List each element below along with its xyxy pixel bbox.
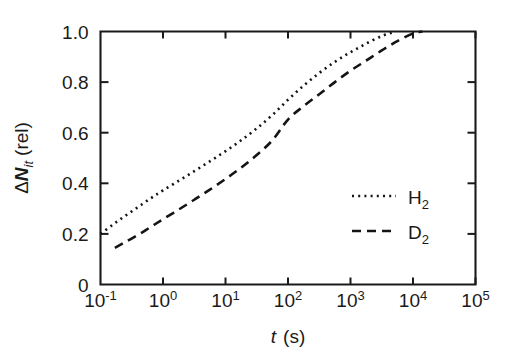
x-axis-title: t(s) <box>271 326 305 347</box>
y-tick-label-0.4: 0.4 <box>62 173 89 194</box>
x-tick-label-2: 102 <box>274 288 302 311</box>
x-tick-label-4: 104 <box>399 288 427 311</box>
legend-label-D2: D2 <box>408 222 429 247</box>
x-tick-label-0: 100 <box>149 288 177 311</box>
y-tick-label-0.6: 0.6 <box>62 123 88 144</box>
chart-svg: 10-110010110210310410500.20.40.60.81.0H2… <box>0 0 511 358</box>
plot-area: 10-110010110210310410500.20.40.60.81.0H2… <box>11 22 490 348</box>
y-tick-label-0.2: 0.2 <box>62 224 88 245</box>
legend-label-H2: H2 <box>408 187 429 212</box>
series-line-D2 <box>115 32 423 248</box>
x-tick-label--1: 10-1 <box>84 288 117 311</box>
x-tick-label-3: 103 <box>336 288 364 311</box>
y-tick-label-0.8: 0.8 <box>62 72 88 93</box>
y-axis-title: ΔNit(rel) <box>11 122 36 194</box>
y-tick-label-0: 0 <box>78 275 89 296</box>
x-tick-label-5: 105 <box>461 288 489 311</box>
axis-frame <box>101 32 476 285</box>
y-tick-label-1: 1.0 <box>62 22 88 43</box>
x-tick-label-1: 101 <box>211 288 239 311</box>
figure-container: 10-110010110210310410500.20.40.60.81.0H2… <box>0 0 511 358</box>
series-line-H2 <box>101 32 395 234</box>
